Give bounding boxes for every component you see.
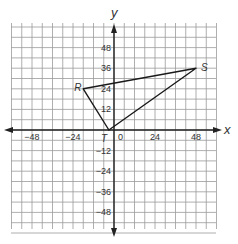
y-tick-label: 48 xyxy=(101,43,111,53)
x-tick-label: 48 xyxy=(191,132,201,142)
y-tick-label: 12 xyxy=(101,104,111,114)
coordinate-plane: −48−240244848362412−12−24−36−48 RST x y xyxy=(0,0,238,244)
x-tick-label: 24 xyxy=(150,132,160,142)
vertex-label-t: T xyxy=(101,133,108,144)
x-tick-label: −48 xyxy=(24,132,39,142)
vertex-label-s: S xyxy=(201,62,208,73)
y-tick-label: −36 xyxy=(96,187,111,197)
vertex-label-r: R xyxy=(74,82,81,93)
y-tick-label: −24 xyxy=(96,166,111,176)
x-tick-label: −24 xyxy=(65,132,80,142)
y-tick-label: −12 xyxy=(96,146,111,156)
y-tick-label: −48 xyxy=(96,207,111,217)
y-tick-label: 36 xyxy=(101,63,111,73)
x-axis-label: x xyxy=(223,122,231,137)
x-tick-label: 0 xyxy=(118,132,123,142)
